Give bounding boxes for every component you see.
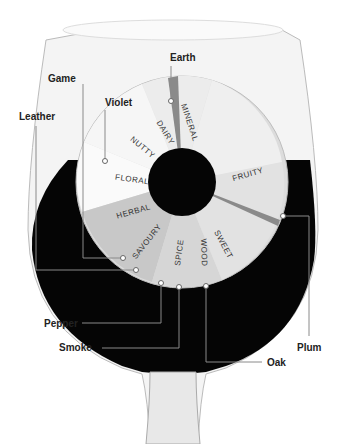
category-spice: SPICE: [173, 239, 186, 267]
category-floral: FLORAL: [115, 173, 150, 187]
callout-oak: Oak: [267, 357, 286, 368]
category-fruity: FRUITY: [231, 166, 264, 183]
category-nutty: NUTTY: [129, 135, 157, 161]
wine-glass-diagram: MINERAL DAIRY NUTTY FLORAL HERBAL SAVOUR…: [0, 0, 346, 444]
callout-earth: Earth: [170, 52, 196, 63]
callout-leather: Leather: [19, 111, 55, 122]
category-mineral: MINERAL: [179, 103, 200, 143]
category-savoury: SAVOURY: [131, 222, 164, 261]
category-herbal: HERBAL: [115, 202, 151, 220]
category-dairy: DAIRY: [154, 119, 176, 147]
callout-violet: Violet: [105, 97, 132, 108]
callout-pepper: Pepper: [44, 318, 78, 329]
category-wood: WOOD: [199, 238, 209, 266]
callout-plum: Plum: [297, 342, 321, 353]
category-sweet: SWEET: [212, 229, 234, 261]
callout-smoke: Smoke: [59, 342, 92, 353]
callout-game: Game: [48, 73, 76, 84]
